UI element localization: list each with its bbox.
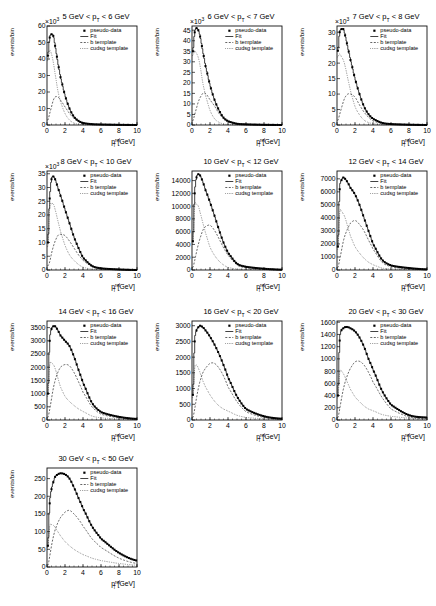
y-tick-label: 20 — [38, 88, 46, 95]
x-tick-label: 10 — [278, 127, 286, 134]
y-axis-label: events/bin — [8, 172, 15, 201]
chart-svg: 7 GeV < pT < 8 GeV×103024681005101520253… — [290, 0, 435, 146]
y-tick-label: 30 — [38, 184, 46, 191]
y-tick-label: 50 — [38, 39, 46, 46]
x-tick-label: 4 — [371, 272, 375, 279]
y-tick-label: 100 — [34, 528, 46, 535]
x-tick-label: 6 — [99, 569, 103, 576]
x-tick-label: 8 — [117, 422, 121, 429]
x-tick-label: 2 — [353, 127, 357, 134]
chart-svg: 5 GeV < pT < 6 GeV×103024681001020304050… — [0, 0, 145, 146]
x-tick-label: 8 — [262, 127, 266, 134]
cudsg-template-curve — [192, 365, 281, 420]
y-tick-label: 14000 — [172, 177, 191, 184]
y-tick-label: 15 — [328, 75, 336, 82]
cudsg-template-curve — [47, 362, 136, 420]
legend-cudsg-template: cudsg template — [380, 190, 418, 196]
y-tick-label: 0 — [187, 416, 191, 423]
x-tick-label: 0 — [335, 127, 339, 134]
y-axis-label: events/bin — [8, 322, 15, 351]
x-tick-label: 2 — [208, 422, 212, 429]
chart-title: 30 GeV < pT < 50 GeV — [58, 454, 133, 465]
y-tick-label: 2000 — [320, 240, 335, 247]
cudsg-template-curve — [192, 203, 281, 270]
b-template-curve — [47, 364, 136, 419]
chart-panel: 12 GeV < pT < 14 GeV02468100100020003000… — [290, 145, 435, 291]
chart-title: 10 GeV < pT < 12 GeV — [203, 157, 278, 168]
y-tick-label: 0 — [42, 563, 46, 570]
y-tick-label: 7000 — [320, 175, 335, 182]
x-tick-label: 4 — [371, 422, 375, 429]
x-tick-label: 6 — [389, 127, 393, 134]
b-template-curve — [192, 363, 281, 419]
b-template-curve — [337, 220, 426, 269]
chart-panel: 16 GeV < pT < 20 GeV02468100500100015002… — [145, 295, 290, 441]
cudsg-template-curve — [192, 51, 281, 125]
legend-cudsg-template: cudsg template — [90, 340, 128, 346]
x-tick-label: 8 — [262, 422, 266, 429]
chart-svg: 8 GeV < pT < 10 GeV×10302468100510152025… — [0, 145, 145, 291]
y-tick-label: 1000 — [320, 253, 335, 260]
y-axis-label: events/bin — [298, 322, 305, 351]
y-tick-label: 5 — [332, 106, 336, 113]
legend: pseudo-dataFitb templatecudsg template — [80, 469, 128, 493]
x-tick-label: 2 — [353, 272, 357, 279]
y-tick-label: 600 — [324, 380, 336, 387]
x-tick-label: 0 — [45, 127, 49, 134]
legend-cudsg-template: cudsg template — [90, 45, 128, 51]
y-axis-label: events/bin — [153, 322, 160, 351]
chart-title: 8 GeV < pT < 10 GeV — [60, 157, 131, 168]
x-tick-label: 2 — [208, 127, 212, 134]
y-tick-label: 10 — [183, 100, 191, 107]
x-tick-label: 4 — [81, 422, 85, 429]
x-tick-label: 2 — [353, 422, 357, 429]
chart-svg: 14 GeV < pT < 16 GeV02468100500100015002… — [0, 295, 145, 441]
y-multiplier: ×103 — [190, 16, 205, 25]
b-template-curve — [337, 94, 426, 125]
x-axis-label: prelT [GeV] — [256, 283, 280, 294]
x-tick-label: 6 — [244, 422, 248, 429]
chart-title: 16 GeV < pT < 20 GeV — [203, 307, 278, 318]
legend-cudsg-template: cudsg template — [235, 190, 273, 196]
chart-svg: 12 GeV < pT < 14 GeV02468100100020003000… — [290, 145, 435, 291]
x-tick-label: 10 — [423, 127, 431, 134]
y-tick-label: 2500 — [175, 338, 190, 345]
y-tick-label: 60 — [38, 22, 46, 29]
x-axis-label: prelT [GeV] — [256, 433, 280, 444]
x-tick-label: 0 — [190, 422, 194, 429]
y-axis-label: events/bin — [298, 27, 305, 56]
cudsg-template-curve — [47, 51, 136, 125]
y-tick-label: 12000 — [172, 190, 191, 197]
y-tick-label: 20 — [183, 79, 191, 86]
chart-panel: 30 GeV < pT < 50 GeV02468100501001502002… — [0, 442, 145, 588]
x-tick-label: 0 — [335, 422, 339, 429]
y-tick-label: 1200 — [320, 343, 335, 350]
y-tick-label: 1500 — [30, 377, 45, 384]
y-multiplier: ×103 — [45, 16, 60, 25]
legend: pseudo-dataFitb templatecudsg template — [370, 322, 418, 346]
chart-svg: 20 GeV < pT < 30 GeV02468100200400600800… — [290, 295, 435, 441]
y-tick-label: 400 — [324, 392, 336, 399]
y-tick-label: 10000 — [172, 203, 191, 210]
y-tick-label: 1600 — [320, 319, 335, 326]
legend: pseudo-dataFitb templatecudsg template — [370, 172, 418, 196]
legend: pseudo-dataFitb templatecudsg template — [370, 27, 418, 51]
chart-panel: 7 GeV < pT < 8 GeV×103024681005101520253… — [290, 0, 435, 146]
y-multiplier: ×103 — [45, 161, 60, 170]
y-tick-label: 4000 — [175, 241, 190, 248]
y-tick-label: 25 — [183, 69, 191, 76]
y-tick-label: 25 — [328, 44, 336, 51]
y-tick-label: 5 — [42, 253, 46, 260]
y-tick-label: 3500 — [30, 324, 45, 331]
x-tick-label: 2 — [63, 272, 67, 279]
y-tick-label: 2000 — [30, 364, 45, 371]
y-tick-label: 2000 — [175, 254, 190, 261]
x-tick-label: 8 — [407, 422, 411, 429]
x-tick-label: 0 — [335, 272, 339, 279]
legend-cudsg-template: cudsg template — [235, 45, 273, 51]
x-axis-label: prelT [GeV] — [401, 283, 425, 294]
x-tick-label: 2 — [63, 422, 67, 429]
x-tick-label: 4 — [81, 127, 85, 134]
y-multiplier: ×103 — [335, 16, 350, 25]
x-tick-label: 0 — [190, 127, 194, 134]
